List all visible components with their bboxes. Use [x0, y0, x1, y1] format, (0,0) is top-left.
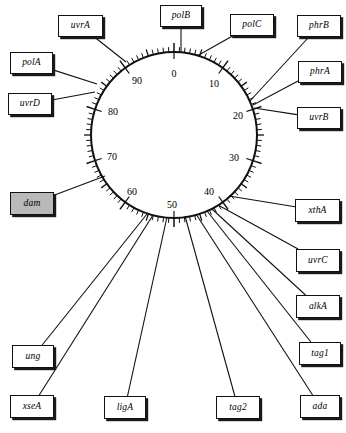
tick-minor — [163, 217, 164, 222]
tick-mid — [101, 82, 107, 86]
gene-label: ligA — [117, 403, 134, 413]
genetic-map-figure: 0102030405060708090 uvrApolBpolCphrBpolA… — [0, 0, 346, 433]
tick-label-30: 30 — [229, 152, 239, 163]
tick-minor — [100, 179, 104, 182]
leader-lines — [39, 27, 312, 396]
gene-box-phrA[interactable]: phrA — [298, 61, 342, 83]
tick-minor — [209, 55, 211, 60]
gene-box-phrB[interactable]: phrB — [297, 15, 341, 37]
tick-minor — [100, 88, 104, 91]
tick-minor — [110, 75, 114, 78]
leader-line-ligA — [128, 217, 167, 396]
tick-minor — [163, 48, 164, 53]
gene-label: alkA — [309, 302, 327, 312]
gene-box-uvrA[interactable]: uvrA — [58, 15, 103, 37]
tick-major — [223, 61, 228, 68]
gene-label: ada — [313, 402, 328, 412]
tick-minor — [87, 124, 92, 125]
leader-line-xseA — [39, 215, 153, 395]
tick-minor — [106, 188, 110, 191]
leader-line-xthA — [229, 196, 295, 207]
tick-minor — [231, 71, 234, 75]
tick-pointer — [246, 158, 253, 160]
tick-major — [120, 61, 125, 68]
gene-box-uvrC[interactable]: uvrC — [296, 249, 340, 272]
leader-line-uvrA — [94, 37, 126, 62]
gene-box-xseA[interactable]: xseA — [10, 395, 54, 418]
gene-box-ligA[interactable]: ligA — [104, 396, 146, 419]
tick-minor — [238, 79, 242, 82]
tick-minor — [244, 88, 248, 91]
tick-minor — [235, 75, 239, 78]
tick-minor — [247, 175, 251, 177]
leader-line-tag1 — [207, 211, 311, 342]
gene-box-ung[interactable]: ung — [12, 345, 54, 368]
tick-mid — [101, 184, 107, 188]
gene-box-uvrB[interactable]: uvrB — [297, 107, 341, 129]
tick-minor — [118, 67, 121, 71]
tick-pointer — [95, 109, 102, 111]
gene-label: polA — [22, 58, 41, 68]
tick-minor — [227, 199, 230, 203]
tick-pointer — [219, 196, 223, 202]
gene-box-dam[interactable]: dam — [10, 192, 54, 215]
tick-pointer — [246, 109, 253, 111]
leader-line-dam — [54, 176, 105, 195]
gene-box-tag2[interactable]: tag2 — [216, 396, 260, 419]
gene-label: phrB — [309, 21, 329, 31]
tick-mid — [241, 184, 247, 188]
gene-label: uvrA — [71, 21, 90, 31]
tick-label-20: 20 — [233, 110, 243, 121]
leader-line-tag2 — [185, 216, 235, 396]
tick-major — [87, 107, 96, 110]
tick-minor — [127, 61, 130, 65]
tick-minor — [114, 196, 117, 200]
gene-label: polC — [242, 20, 261, 30]
tick-minor — [132, 58, 134, 62]
gene-label: uvrD — [20, 99, 40, 109]
gene-box-alkA[interactable]: alkA — [296, 295, 340, 318]
gene-box-xthA[interactable]: xthA — [295, 199, 340, 222]
tick-label-80: 80 — [108, 106, 118, 117]
tick-minor — [94, 170, 99, 172]
tick-label-40: 40 — [204, 186, 214, 197]
tick-major — [87, 161, 96, 164]
leader-line-ung — [42, 214, 147, 345]
tick-minor — [114, 71, 117, 75]
gene-box-polA[interactable]: polA — [10, 52, 53, 74]
gene-box-polB[interactable]: polB — [160, 5, 202, 27]
tick-minor — [218, 61, 221, 65]
gene-box-polC[interactable]: polC — [230, 14, 274, 36]
tick-minor — [184, 48, 185, 53]
tick-mid — [200, 49, 202, 56]
tick-minor — [97, 175, 101, 177]
gene-label: polB — [172, 11, 191, 21]
gene-label: uvrC — [308, 256, 328, 266]
leader-line-uvrD — [52, 92, 95, 100]
gene-box-uvrD[interactable]: uvrD — [8, 93, 52, 115]
tick-minor — [106, 79, 110, 82]
leader-line-uvrB — [254, 108, 297, 115]
tick-minor — [249, 170, 254, 172]
tick-minor — [94, 98, 99, 100]
tick-minor — [132, 208, 134, 212]
tick-minor — [227, 67, 230, 71]
gene-label: dam — [24, 199, 41, 209]
tick-label-60: 60 — [127, 186, 137, 197]
tick-pointer — [125, 196, 129, 202]
leader-line-polA — [53, 70, 97, 84]
tick-minor — [214, 58, 216, 62]
tick-minor — [87, 145, 92, 146]
tick-minor — [184, 217, 185, 222]
gene-box-tag1[interactable]: tag1 — [299, 342, 341, 365]
gene-label: xseA — [23, 402, 42, 412]
tick-pointer — [95, 158, 102, 160]
tick-minor — [256, 124, 261, 125]
gene-box-ada[interactable]: ada — [300, 395, 340, 418]
tick-minor — [137, 55, 139, 60]
tick-minor — [97, 93, 101, 95]
tick-major — [120, 202, 125, 209]
tick-minor — [110, 192, 114, 195]
gene-label: phrA — [310, 67, 330, 77]
leader-line-uvrC — [218, 205, 298, 249]
